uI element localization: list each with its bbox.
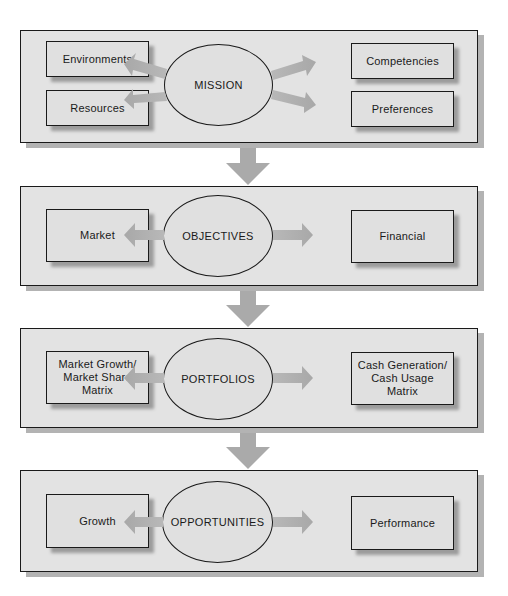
arrow-to-financial	[273, 223, 313, 247]
opportunities-arrows	[21, 471, 479, 573]
arrow-to-market	[124, 223, 164, 247]
mission-panel: Environments Resources MISSION Competenc…	[20, 30, 478, 143]
down-arrow-3	[226, 432, 270, 469]
arrow-to-market-growth-matrix	[124, 366, 164, 390]
arrow-to-competencies	[271, 55, 316, 80]
arrow-to-resources	[124, 89, 167, 109]
portfolios-arrows	[21, 329, 479, 429]
arrow-to-cash-generation-matrix	[273, 366, 313, 390]
portfolios-panel: Market Growth/ Market Share Matrix PORTF…	[20, 328, 478, 428]
arrow-to-environments	[124, 53, 167, 79]
down-arrow-1	[226, 147, 270, 185]
mission-arrows	[21, 31, 479, 144]
arrow-to-growth	[124, 510, 163, 534]
opportunities-panel: Growth OPPORTUNITIES Performance	[20, 470, 478, 572]
objectives-panel: Market OBJECTIVES Financial	[20, 186, 478, 286]
down-arrow-2	[226, 290, 270, 327]
objectives-arrows	[21, 187, 479, 287]
arrow-to-performance	[273, 510, 313, 534]
arrow-to-preferences	[271, 90, 316, 113]
